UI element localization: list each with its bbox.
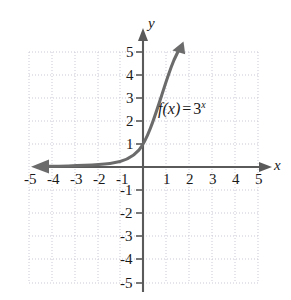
y-tick-label-neg5: -5 — [120, 276, 133, 291]
function-equation-label: f(x)=3x — [158, 101, 206, 117]
plot-canvas: .gridline { stroke: #c9c9d6; stroke-widt… — [0, 0, 291, 300]
function-argument: (x) — [162, 100, 180, 117]
x-tick-label-neg2: -2 — [93, 172, 106, 187]
x-tick-label-5: 5 — [255, 172, 263, 187]
y-tick-label-4: 4 — [126, 68, 134, 83]
x-tick-label-1: 1 — [163, 172, 171, 187]
y-tick-label-neg3: -3 — [120, 229, 133, 244]
y-tick-label-1: 1 — [126, 137, 134, 152]
y-axis — [138, 28, 148, 292]
x-tick-label-neg4: -4 — [47, 172, 60, 187]
curve-right-arrowhead — [172, 42, 185, 55]
exponential-function-graph: .gridline { stroke: #c9c9d6; stroke-widt… — [0, 0, 291, 300]
equals-sign: = — [180, 100, 193, 117]
x-tick-label-3: 3 — [209, 172, 217, 187]
y-axis-label: y — [148, 16, 155, 31]
y-tick-label-neg1: -1 — [120, 183, 133, 198]
y-tick-label-neg2: -2 — [120, 206, 133, 221]
y-axis-arrowhead — [138, 28, 148, 41]
x-tick-label-neg3: -3 — [70, 172, 83, 187]
y-tick-label-5: 5 — [126, 45, 134, 60]
x-tick-label-4: 4 — [232, 172, 240, 187]
x-axis-label: x — [274, 158, 281, 173]
function-exponent: x — [201, 99, 205, 110]
x-tick-label-neg5: -5 — [24, 172, 37, 187]
y-tick-label-neg4: -4 — [120, 252, 133, 267]
y-tick-label-2: 2 — [126, 114, 134, 129]
x-tick-label-2: 2 — [186, 172, 194, 187]
y-tick-label-3: 3 — [126, 91, 134, 106]
